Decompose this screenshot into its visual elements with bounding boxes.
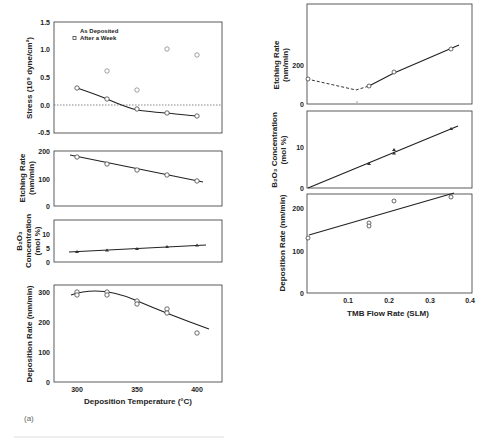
b2o3-left-ylabel-unit: (mol %) xyxy=(33,226,42,255)
stress-panel: 1.5 1.0 0.5 0.0 -0.5 Stress (10⁹ dyne/cm… xyxy=(25,19,222,136)
dep-tick-100: 100 xyxy=(38,349,50,356)
temp-tick-400: 400 xyxy=(191,386,203,393)
b2o3-tick-5: 5 xyxy=(46,245,50,252)
figure-label: (a) xyxy=(24,414,34,423)
dep-right-tick-0: 0 xyxy=(300,290,304,297)
tmb-tick-0.3: 0.3 xyxy=(425,297,435,304)
b2o3-left-ylabel-2: Concentration xyxy=(24,214,33,268)
data-point xyxy=(165,111,169,115)
stress-tick-1.5: 1.5 xyxy=(40,19,50,26)
dep-right-ylabel: Deposition Rate (nm/min) xyxy=(278,194,287,291)
data-point xyxy=(135,302,139,306)
data-point-after-week xyxy=(135,88,139,92)
data-point xyxy=(105,97,109,101)
data-point xyxy=(165,311,169,315)
stray-mark xyxy=(356,101,357,102)
data-point xyxy=(105,162,109,166)
data-point xyxy=(392,70,396,74)
dep-right-tick-100: 100 xyxy=(292,248,304,255)
b2o3-right-panel: 10 0 B₂O₃ Concentration (mol %) xyxy=(270,111,472,192)
tmb-tick-0.2: 0.2 xyxy=(384,297,394,304)
legend-after-week: After a Week xyxy=(80,35,117,41)
data-point xyxy=(195,331,199,335)
etching-rate-right-panel: 200 0 Etching Rate (nm/min) xyxy=(272,4,472,108)
data-point xyxy=(75,293,79,297)
stress-tick-0.5: 0.5 xyxy=(40,74,50,81)
data-point-after-week xyxy=(105,69,109,73)
b2o3-right-ylabel: B₂O₃ Concentration xyxy=(270,112,279,188)
b2o3-tick-10: 10 xyxy=(42,231,50,238)
etching-rate-left-panel: 200 100 0 Etching Rate (nm/min) xyxy=(18,148,222,210)
temp-xlabel: Deposition Temperature (°C) xyxy=(84,397,192,406)
dep-left-ylabel: Deposition Rate (nm/min) xyxy=(25,285,34,382)
dep-tick-300: 300 xyxy=(38,289,50,296)
etch-tick-0: 0 xyxy=(46,203,50,210)
data-point xyxy=(165,173,169,177)
data-point-after-week xyxy=(195,53,199,57)
data-point xyxy=(75,86,79,90)
triangle-marker-icon xyxy=(392,148,396,151)
data-point xyxy=(105,293,109,297)
deposition-rate-left-panel: 300 200 100 0 Deposition Rate (nm/min) 3… xyxy=(25,285,222,406)
etch-tick-200: 200 xyxy=(38,148,50,155)
data-point xyxy=(367,84,371,88)
etch-right-tick-200: 200 xyxy=(292,62,304,69)
tmb-tick-0.4: 0.4 xyxy=(465,297,475,304)
b2o3-right-ylabel-unit: (mol %) xyxy=(279,135,288,164)
b2o3-left-panel: 10 5 0 B₂O₃ Concentration (mol %) xyxy=(15,214,222,268)
temp-tick-300: 300 xyxy=(71,386,83,393)
deposition-rate-right-panel: 200 100 0 Deposition Rate (nm/min) 0.1 0… xyxy=(278,193,475,318)
etch-tick-100: 100 xyxy=(38,176,50,183)
dep-right-tick-200: 200 xyxy=(292,205,304,212)
data-point xyxy=(449,47,453,51)
etch-right-dashed-line xyxy=(307,79,369,90)
data-point xyxy=(449,195,453,199)
b2o3-right-fit-line xyxy=(308,126,458,188)
etch-left-ylabel-unit: (nm/min) xyxy=(27,161,36,195)
legend-as-deposited: As Deposited xyxy=(80,28,119,34)
b2o3-left-frame xyxy=(54,220,222,262)
dep-tick-200: 200 xyxy=(38,319,50,326)
dep-right-frame xyxy=(307,194,472,293)
data-point xyxy=(392,199,396,203)
etch-left-ylabel: Etching Rate xyxy=(18,153,27,202)
dep-right-fit-line xyxy=(309,193,454,235)
data-point xyxy=(195,179,199,183)
data-point xyxy=(306,77,310,81)
legend-square-marker-icon xyxy=(73,37,76,40)
b2o3-tick-0: 0 xyxy=(46,259,50,266)
data-point xyxy=(367,224,371,228)
etch-right-solid-line xyxy=(369,45,459,86)
b2o3-right-tick-10: 10 xyxy=(296,144,304,151)
b2o3-right-frame xyxy=(307,111,472,188)
dep-tick-0: 0 xyxy=(46,379,50,386)
etch-right-ylabel-unit: (nm/min) xyxy=(281,48,290,82)
data-point xyxy=(135,168,139,172)
data-point-after-week xyxy=(165,47,169,51)
b2o3-right-tick-0: 0 xyxy=(300,185,304,192)
stress-tick-1.0: 1.0 xyxy=(40,46,50,53)
data-point xyxy=(75,155,79,159)
stress-ylabel: Stress (10⁹ dyne/cm²) xyxy=(25,37,34,119)
cropped-caption-line xyxy=(14,436,224,438)
data-point xyxy=(306,236,310,240)
tmb-tick-0.1: 0.1 xyxy=(343,297,353,304)
tmb-xlabel: TMB Flow Rate (SLM) xyxy=(347,309,429,318)
data-point xyxy=(195,114,199,118)
etch-right-ylabel: Etching Rate xyxy=(272,40,281,89)
etch-right-tick-0: 0 xyxy=(300,101,304,108)
figure-canvas: 1.5 1.0 0.5 0.0 -0.5 Stress (10⁹ dyne/cm… xyxy=(0,0,491,443)
stress-tick-neg0.5: -0.5 xyxy=(38,129,50,136)
etch-right-frame xyxy=(307,4,472,104)
temp-tick-350: 350 xyxy=(131,386,143,393)
data-point xyxy=(135,107,139,111)
b2o3-left-ylabel: B₂O₃ xyxy=(15,231,24,251)
dep-left-fit-curve xyxy=(71,291,209,329)
stress-tick-0.0: 0.0 xyxy=(40,102,50,109)
